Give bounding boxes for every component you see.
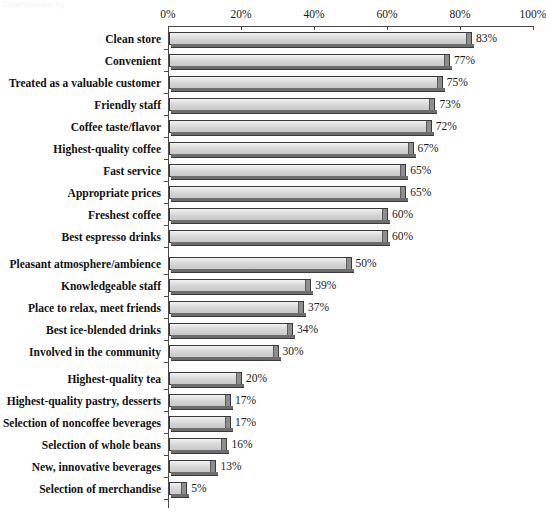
bar-end-cap [346,258,351,269]
category-label: Best ice-blended drinks [0,319,161,341]
bar-end-cap [429,99,434,110]
bar-container [169,32,472,46]
bar-end-cap [382,209,387,220]
x-tick-label: 80% [449,8,470,20]
category-label: Selection of merchandise [0,478,161,500]
bar-row: Highest-quality pastry, desserts17% [0,390,541,412]
bar-end-cap [444,55,449,66]
bar-value-label: 20% [246,371,267,385]
bar-value-label: 50% [356,256,377,270]
bar-row: Selection of whole beans16% [0,434,541,456]
bar-value-label: 75% [447,75,468,89]
category-label: Clean store [0,28,161,50]
category-label: Treated as a valuable customer [0,72,161,94]
bar-container [169,301,304,315]
x-tick-label: 20% [230,8,251,20]
bar-container [169,257,352,271]
bar-value-label: 13% [220,459,241,473]
bar-shadow [171,66,452,70]
bar-shadow [171,291,313,295]
bar-row: Selection of noncoffee beverages17% [0,412,541,434]
bar-end-cap [287,324,292,335]
bar-value-label: 39% [315,278,336,292]
category-label: Highest-quality coffee [0,138,161,160]
bar-row: Involved in the community30% [0,341,541,363]
bar-container [169,345,279,359]
bar-end-cap [305,280,310,291]
bar-container [169,279,311,293]
category-label: Freshest coffee [0,204,161,226]
bar-end-cap [437,77,442,88]
bar-value-label: 17% [235,415,256,429]
category-label: Place to relax, meet friends [0,297,161,319]
bar-container [169,460,216,474]
category-label: Involved in the community [0,341,161,363]
category-label: Appropriate prices [0,182,161,204]
bar-row: Selection of merchandise5% [0,478,541,500]
bar-shadow [171,176,408,180]
bar-end-cap [225,395,230,406]
bar-shadow [171,44,474,48]
bar-end-cap [466,33,471,44]
bar-shadow [171,220,390,224]
bar-value-label: 5% [191,481,206,495]
bar-shadow [171,110,437,114]
bar-end-cap [400,165,405,176]
bar-end-cap [225,417,230,428]
bar-shadow [171,472,218,476]
category-label: Selection of noncoffee beverages [0,412,161,434]
category-label: Convenient [0,50,161,72]
category-label: Fast service [0,160,161,182]
bar-end-cap [221,439,226,450]
bar-end-cap [181,483,186,494]
bar-value-label: 83% [476,31,497,45]
bar-container [169,54,450,68]
bar-container [169,438,227,452]
bar-row: Coffee taste/flavor72% [0,116,541,138]
bar-shadow [171,198,408,202]
bar-value-label: 77% [454,53,475,67]
bar-container [169,120,432,134]
bar-container [169,98,435,112]
bar-shadow [171,450,229,454]
category-label: New, innovative beverages [0,456,161,478]
bar-row: Pleasant atmosphere/ambience50% [0,253,541,275]
x-tick-label: 0% [160,8,175,20]
bar-value-label: 34% [297,322,318,336]
category-label: Pleasant atmosphere/ambience [0,253,161,275]
bar-shadow [171,269,354,273]
bar-container [169,76,443,90]
bar-shadow [171,154,416,158]
bar-value-label: 60% [392,229,413,243]
bar-end-cap [426,121,431,132]
bar-row: Highest-quality coffee67% [0,138,541,160]
x-tick-label: 100% [520,8,546,20]
bar-row: Treated as a valuable customer75% [0,72,541,94]
bar-container [169,186,406,200]
category-label: Knowledgeable staff [0,275,161,297]
bar-shadow [171,242,390,246]
bar-row: Knowledgeable staff39% [0,275,541,297]
bar-shadow [171,428,233,432]
bar-container [169,142,414,156]
bar-shadow [171,313,306,317]
bar-row: New, innovative beverages13% [0,456,541,478]
bar-container [169,164,406,178]
bar-shadow [171,406,233,410]
bar-container [169,230,388,244]
bar-shadow [171,384,244,388]
bar-end-cap [273,346,278,357]
bar-value-label: 60% [392,207,413,221]
bar-container [169,394,231,408]
bar-row: Highest-quality tea20% [0,368,541,390]
x-tick-label: 60% [376,8,397,20]
bar-container [169,482,187,496]
bar-row: Fast service65% [0,160,541,182]
bar-row: Best ice-blended drinks34% [0,319,541,341]
bar-value-label: 73% [439,97,460,111]
category-label: Selection of whole beans [0,434,161,456]
bar-container [169,323,293,337]
bar-shadow [171,132,434,136]
bar-shadow [171,88,445,92]
category-label: Highest-quality tea [0,368,161,390]
